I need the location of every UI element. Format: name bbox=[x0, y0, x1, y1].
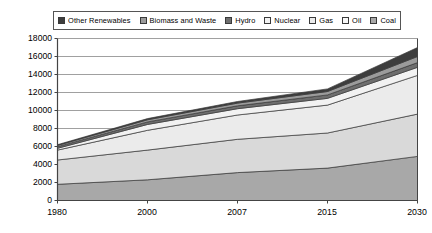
x-tick-label: 1980 bbox=[34, 207, 80, 217]
x-tick-label: 2000 bbox=[124, 207, 170, 217]
x-tick-label: 2030 bbox=[394, 207, 432, 217]
stacked-area-chart: Other Renewables Biomass and Waste Hydro… bbox=[0, 0, 432, 233]
x-tick-label: 2015 bbox=[304, 207, 350, 217]
x-axis: 1980 2000 2007 2015 2030 bbox=[0, 0, 432, 233]
x-tick-label: 2007 bbox=[214, 207, 260, 217]
